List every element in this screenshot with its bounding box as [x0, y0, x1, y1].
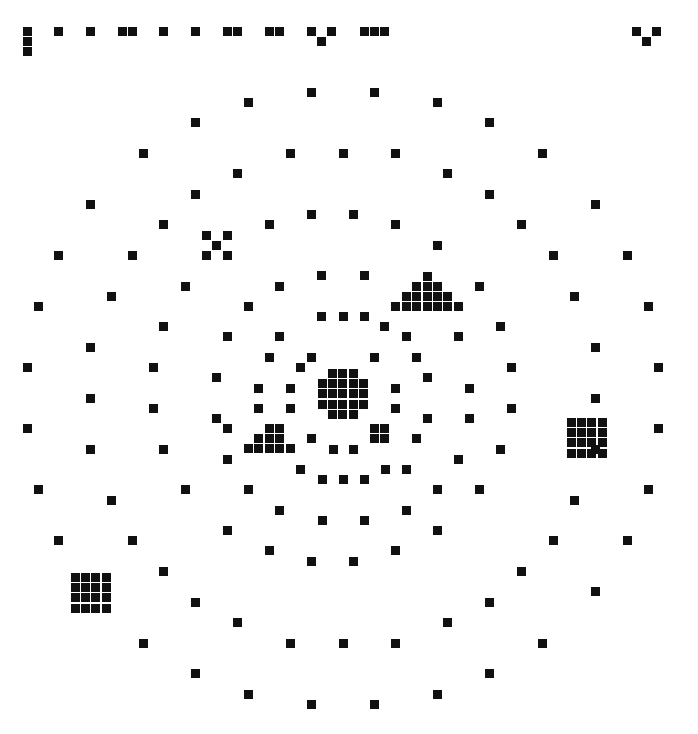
cluster-center-octagon-square	[318, 379, 327, 388]
cluster-small-square-2x2-square	[380, 434, 389, 443]
header-marker-square	[23, 37, 32, 46]
scatter-square	[296, 465, 305, 474]
scatter-square	[485, 598, 494, 607]
cluster-grid-4x4-left-square	[91, 573, 100, 582]
scatter-square	[107, 292, 116, 301]
cluster-center-octagon-square	[328, 410, 337, 419]
cluster-center-octagon-square	[328, 369, 337, 378]
cluster-grid-4x4-right-square	[577, 428, 586, 437]
header-marker-square	[128, 27, 137, 36]
scatter-square	[391, 546, 400, 555]
cluster-grid-4x4-right-square	[587, 438, 596, 447]
scatter-square	[223, 332, 232, 341]
scatter-square	[538, 639, 547, 648]
scatter-square	[149, 404, 158, 413]
header-marker-square	[652, 27, 661, 36]
scatter-square	[370, 353, 379, 362]
scatter-square	[212, 414, 221, 423]
scatter-square	[244, 690, 253, 699]
scatter-square	[307, 88, 316, 97]
cluster-triangle-upper-right-square	[433, 292, 442, 301]
scatter-square	[86, 343, 95, 352]
scatter-square	[275, 282, 284, 291]
cluster-grid-4x4-right-square	[598, 428, 607, 437]
pixel-art-canvas	[0, 0, 698, 734]
scatter-square	[34, 485, 43, 494]
scatter-square	[465, 384, 474, 393]
scatter-square	[233, 169, 242, 178]
scatter-square	[307, 353, 316, 362]
scatter-square	[475, 485, 484, 494]
scatter-square	[54, 251, 63, 260]
cluster-center-octagon-square	[338, 389, 347, 398]
cluster-triangle-upper-right-square	[423, 282, 432, 291]
scatter-square	[159, 445, 168, 454]
header-marker-square	[307, 27, 316, 36]
cluster-grid-4x4-left-square	[71, 593, 80, 602]
scatter-square	[443, 618, 452, 627]
scatter-square	[349, 445, 358, 454]
scatter-square	[339, 639, 348, 648]
cluster-x-cross-square	[202, 231, 211, 240]
cluster-center-octagon-square	[359, 379, 368, 388]
scatter-square	[286, 384, 295, 393]
cluster-triangle-lower-left-square	[254, 444, 263, 453]
cluster-grid-4x4-right-square	[598, 418, 607, 427]
cluster-triangle-lower-left-square	[265, 424, 274, 433]
cluster-triangle-upper-right-square	[402, 302, 411, 311]
cluster-x-cross-square	[202, 251, 211, 260]
cluster-grid-4x4-left-square	[91, 583, 100, 592]
scatter-square	[191, 669, 200, 678]
cluster-center-octagon-square	[359, 400, 368, 409]
scatter-square	[465, 414, 474, 423]
scatter-square	[139, 149, 148, 158]
cluster-center-octagon-square	[318, 389, 327, 398]
scatter-square	[286, 639, 295, 648]
cluster-triangle-upper-right-square	[443, 302, 452, 311]
scatter-square	[318, 475, 327, 484]
scatter-square	[286, 149, 295, 158]
cluster-center-octagon-square	[328, 389, 337, 398]
cluster-grid-4x4-left-square	[81, 583, 90, 592]
scatter-square	[433, 526, 442, 535]
scatter-square	[485, 669, 494, 678]
cluster-grid-4x4-left-square	[102, 573, 111, 582]
scatter-square	[296, 363, 305, 372]
cluster-grid-4x4-right-square	[587, 428, 596, 437]
scatter-square	[623, 536, 632, 545]
scatter-square	[339, 312, 348, 321]
scatter-square	[86, 200, 95, 209]
cluster-grid-4x4-left-square	[71, 573, 80, 582]
scatter-square	[159, 220, 168, 229]
cluster-grid-4x4-right-square	[577, 449, 586, 458]
cluster-grid-4x4-left-square	[71, 604, 80, 613]
cluster-grid-4x4-right-square	[598, 449, 607, 458]
scatter-square	[128, 251, 137, 260]
scatter-square	[433, 690, 442, 699]
scatter-square	[275, 332, 284, 341]
cluster-center-octagon-square	[359, 389, 368, 398]
scatter-square	[360, 312, 369, 321]
cluster-grid-4x4-left-square	[91, 604, 100, 613]
header-marker-square	[275, 27, 284, 36]
scatter-square	[433, 241, 442, 250]
scatter-square	[507, 404, 516, 413]
cluster-triangle-upper-right-square	[412, 292, 421, 301]
scatter-square	[517, 220, 526, 229]
cluster-center-octagon-square	[328, 400, 337, 409]
cluster-triangle-upper-right-square	[454, 302, 463, 311]
scatter-square	[349, 557, 358, 566]
scatter-square	[391, 149, 400, 158]
header-marker-square	[632, 27, 641, 36]
scatter-square	[591, 394, 600, 403]
scatter-square	[370, 700, 379, 709]
scatter-square	[254, 384, 263, 393]
scatter-square	[191, 598, 200, 607]
scatter-square	[391, 404, 400, 413]
scatter-square	[339, 149, 348, 158]
cluster-grid-4x4-left-square	[71, 583, 80, 592]
scatter-square	[275, 506, 284, 515]
scatter-square	[128, 536, 137, 545]
scatter-square	[233, 618, 242, 627]
cluster-triangle-lower-left-square	[286, 444, 295, 453]
